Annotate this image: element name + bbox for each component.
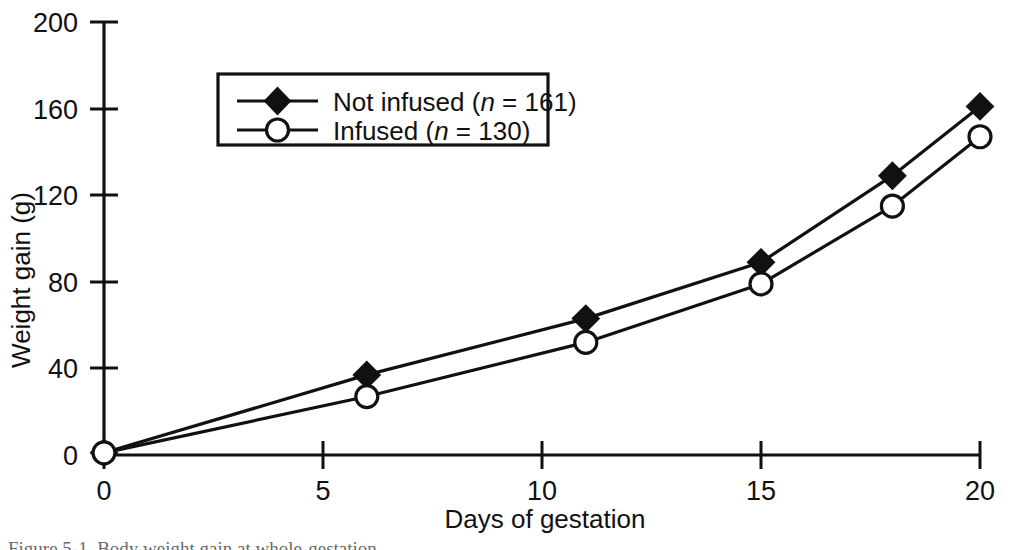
data-point-open-circle <box>575 331 597 353</box>
legend: Not infused (n = 161) Infused (n = 130) <box>218 74 577 146</box>
data-point-open-circle <box>93 442 115 464</box>
y-axis-title: Weight gain (g) <box>6 192 36 368</box>
figure-container: 200 160 120 80 40 0 0 5 10 15 20 Weight … <box>0 0 1011 550</box>
y-tick-label-40: 40 <box>48 354 78 384</box>
series-line <box>104 137 980 453</box>
y-tick-label-120: 120 <box>33 181 78 211</box>
x-tick-label-15: 15 <box>746 476 776 506</box>
y-tick-label-0: 0 <box>63 441 78 471</box>
legend-label-infused-italic-n: n <box>434 116 448 146</box>
series-line <box>104 106 980 452</box>
x-tick-label-0: 0 <box>96 476 111 506</box>
y-axis-tick-labels: 200 160 120 80 40 0 <box>33 8 78 471</box>
x-tick-label-10: 10 <box>527 476 557 506</box>
data-point-open-circle <box>881 195 903 217</box>
data-point-open-circle <box>356 386 378 408</box>
series-layer <box>91 93 993 465</box>
y-tick-label-160: 160 <box>33 95 78 125</box>
legend-label-not-infused: Not infused (n = 161) <box>333 87 577 117</box>
x-axis-title: Days of gestation <box>445 504 646 534</box>
y-tick-label-80: 80 <box>48 268 78 298</box>
legend-label-not-infused-tail: = 161) <box>495 87 577 117</box>
legend-label-not-infused-italic-n: n <box>480 87 494 117</box>
data-point-open-circle <box>969 126 991 148</box>
legend-label-infused-tail: = 130) <box>449 116 531 146</box>
line-chart: 200 160 120 80 40 0 0 5 10 15 20 Weight … <box>0 0 1011 550</box>
open-circle-icon <box>267 119 289 141</box>
legend-label-infused-text: Infused ( <box>333 116 435 146</box>
figure-caption: Figure 5-1. Body weight gain at whole-ge… <box>8 536 568 550</box>
series-infused <box>93 126 991 464</box>
y-tick-label-200: 200 <box>33 8 78 38</box>
legend-entry-infused[interactable]: Infused (n = 130) <box>237 116 530 146</box>
legend-label-not-infused-text: Not infused ( <box>333 87 481 117</box>
x-axis-tick-labels: 0 5 10 15 20 <box>96 476 995 506</box>
legend-label-infused: Infused (n = 130) <box>333 116 530 146</box>
x-tick-label-5: 5 <box>315 476 330 506</box>
x-tick-label-20: 20 <box>965 476 995 506</box>
data-point-open-circle <box>750 273 772 295</box>
series-not-infused <box>91 93 993 465</box>
data-point-filled-diamond <box>573 306 599 332</box>
